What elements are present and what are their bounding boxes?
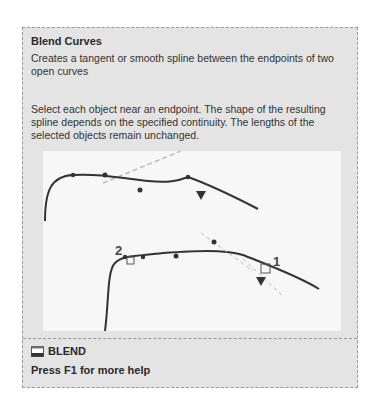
endpoint-label-1: 1 bbox=[273, 254, 280, 269]
tooltip-description: Creates a tangent or smooth spline betwe… bbox=[31, 52, 353, 78]
help-hint: Press F1 for more help bbox=[31, 364, 150, 376]
blend-command-icon bbox=[31, 346, 44, 357]
blend-curves-diagram: 2 1 bbox=[43, 151, 341, 331]
command-row: BLEND bbox=[31, 345, 86, 357]
endpoint-label-2: 2 bbox=[115, 243, 122, 258]
command-name: BLEND bbox=[48, 345, 86, 357]
tooltip-illustration: 2 1 bbox=[43, 151, 341, 331]
tooltip-panel: Blend Curves Creates a tangent or smooth… bbox=[22, 27, 358, 388]
tooltip-title: Blend Curves bbox=[31, 35, 102, 47]
separator bbox=[23, 338, 357, 339]
tooltip-detail: Select each object near an endpoint. The… bbox=[31, 103, 353, 142]
